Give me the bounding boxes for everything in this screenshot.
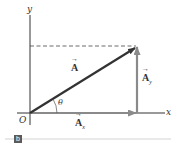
vector-ax-subscript: x	[82, 124, 85, 130]
vector-arrow-glyph: →	[75, 111, 82, 118]
panel-label-badge: b	[14, 135, 22, 143]
angle-arc	[53, 99, 57, 113]
angle-theta-label: θ	[58, 99, 63, 107]
origin-label: O	[19, 116, 26, 125]
x-axis-label: x	[166, 108, 171, 117]
vector-arrow-glyph: →	[142, 66, 149, 73]
vector-a-label: → A	[71, 63, 78, 73]
vector-a	[30, 48, 135, 113]
vector-arrow-glyph: →	[71, 56, 78, 63]
vector-ax-label: → Ax	[75, 118, 85, 130]
y-axis-label: y	[27, 5, 32, 14]
vector-ay-label: → Ay	[142, 73, 152, 85]
vector-ay-subscript: y	[149, 79, 152, 85]
vector-a-letter: A	[71, 62, 78, 73]
vector-diagram	[0, 0, 179, 160]
